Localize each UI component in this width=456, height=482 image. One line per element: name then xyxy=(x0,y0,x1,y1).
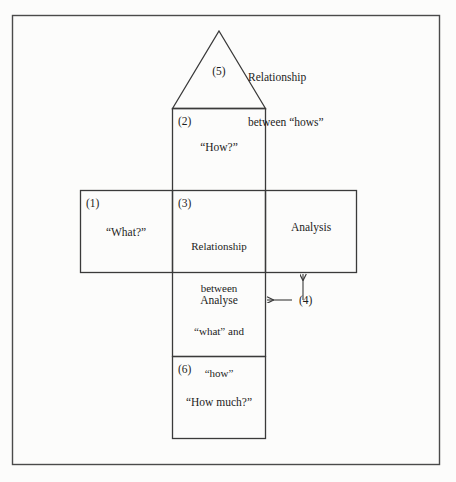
analysis-label: Analysis xyxy=(291,221,331,235)
marker-relationship: (3) xyxy=(178,197,191,211)
diagram-canvas: (5) Relationship between “hows” (2) “How… xyxy=(0,0,456,482)
marker-whats: (1) xyxy=(86,197,99,211)
marker-how-much: (6) xyxy=(178,363,191,377)
relationship-label: Relationship between “what” and “how” xyxy=(173,211,265,408)
relationship-line-1: Relationship xyxy=(173,239,265,253)
whats-label: “What?” xyxy=(106,226,146,240)
analyse-label: Analyse xyxy=(200,294,238,308)
marker-hows: (2) xyxy=(178,115,191,129)
marker-roof: (5) xyxy=(212,65,225,79)
hows-label: “How?” xyxy=(200,141,238,155)
roof-note-line-2: between “hows” xyxy=(248,115,324,130)
how-much-label: “How much?” xyxy=(186,396,252,410)
marker-arrows-four: (4) xyxy=(299,294,312,308)
roof-note-line-1: Relationship xyxy=(248,70,324,85)
roof-note: Relationship between “hows” xyxy=(248,40,324,160)
relationship-line-3: “what” and xyxy=(173,324,265,338)
